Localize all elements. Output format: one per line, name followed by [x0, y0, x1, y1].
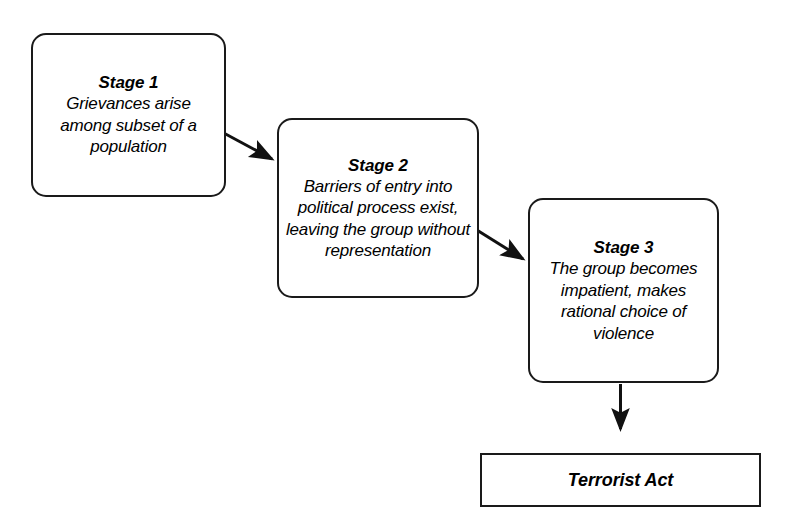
node-stage-2-title: Stage 2: [348, 155, 408, 176]
node-terrorist-act[interactable]: Terrorist Act: [480, 453, 761, 507]
node-stage-1[interactable]: Stage 1 Grievances arise among subset of…: [31, 33, 226, 197]
arrow-stage1-to-stage2: [220, 131, 272, 159]
node-stage-2-body: Barriers of entry into political process…: [279, 176, 477, 262]
node-terrorist-act-label: Terrorist Act: [568, 469, 673, 491]
flowchart-diagram: Stage 1 Grievances arise among subset of…: [0, 0, 788, 532]
node-stage-3[interactable]: Stage 3 The group becomes impatient, mak…: [528, 198, 719, 383]
node-stage-1-title: Stage 1: [99, 72, 159, 93]
arrow-stage2-to-stage3: [472, 227, 523, 259]
node-stage-2[interactable]: Stage 2 Barriers of entry into political…: [277, 118, 479, 298]
node-stage-3-title: Stage 3: [594, 237, 654, 258]
node-stage-3-body: The group becomes impatient, makes ratio…: [530, 258, 717, 344]
node-stage-1-body: Grievances arise among subset of a popul…: [33, 93, 224, 158]
